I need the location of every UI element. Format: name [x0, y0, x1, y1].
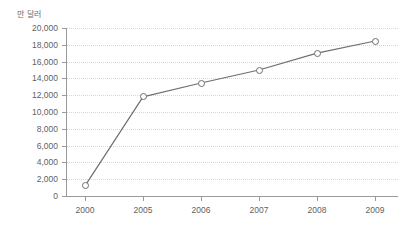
y-axis-tick-label: 12,000 — [32, 90, 58, 100]
y-axis-tick — [62, 78, 66, 79]
grid-line — [66, 28, 398, 29]
y-axis-tick-label: 10,000 — [32, 107, 58, 117]
y-axis-tick — [62, 179, 66, 180]
data-point-marker — [314, 50, 321, 57]
y-axis-tick — [62, 146, 66, 147]
grid-line — [66, 162, 398, 163]
y-axis-tick — [62, 95, 66, 96]
grid-line — [66, 95, 398, 96]
x-axis-tick — [375, 196, 376, 201]
y-axis-tick — [62, 45, 66, 46]
grid-line — [66, 62, 398, 63]
y-axis-line — [66, 28, 67, 196]
x-axis-tick — [259, 196, 260, 201]
y-axis-tick-label: 20,000 — [32, 23, 58, 33]
grid-lines — [66, 28, 398, 196]
y-axis-tick-label: 8,000 — [37, 124, 58, 134]
y-axis-tick — [62, 112, 66, 113]
grid-line — [66, 129, 398, 130]
x-axis-tick-label: 2005 — [123, 205, 163, 215]
x-axis-tick-label: 2009 — [355, 205, 395, 215]
y-axis-tick-label: 16,000 — [32, 57, 58, 67]
data-point-marker — [198, 80, 205, 87]
x-axis-tick — [317, 196, 318, 201]
y-axis-tick-label: 6,000 — [37, 141, 58, 151]
y-axis-tick — [62, 28, 66, 29]
grid-line — [66, 146, 398, 147]
grid-line — [66, 45, 398, 46]
y-axis-tick — [62, 129, 66, 130]
y-axis-tick — [62, 62, 66, 63]
x-axis-tick-label: 2006 — [181, 205, 221, 215]
data-point-marker — [372, 38, 379, 45]
x-axis-tick-label: 2000 — [65, 205, 105, 215]
y-axis-tick-label: 0 — [53, 191, 58, 201]
data-point-marker — [140, 93, 147, 100]
y-axis-tick-label: 18,000 — [32, 40, 58, 50]
y-axis-tick-label: 14,000 — [32, 73, 58, 83]
grid-line — [66, 78, 398, 79]
x-axis-tick-label: 2008 — [297, 205, 337, 215]
y-axis-unit-label: 만 달러 — [17, 8, 41, 19]
y-axis-tick — [62, 162, 66, 163]
y-axis-tick-label: 2,000 — [37, 174, 58, 184]
data-point-marker — [82, 182, 89, 189]
x-axis-tick — [85, 196, 86, 201]
y-axis-tick-label: 4,000 — [37, 157, 58, 167]
grid-line — [66, 112, 398, 113]
line-chart: 만 달러 02,0004,0006,0008,00010,00012,00014… — [0, 0, 420, 233]
x-axis-tick-label: 2007 — [239, 205, 279, 215]
data-point-marker — [256, 67, 263, 74]
y-axis-tick — [62, 196, 66, 197]
x-axis-tick — [143, 196, 144, 201]
x-axis-line — [66, 196, 398, 197]
grid-line — [66, 179, 398, 180]
x-axis-tick — [201, 196, 202, 201]
